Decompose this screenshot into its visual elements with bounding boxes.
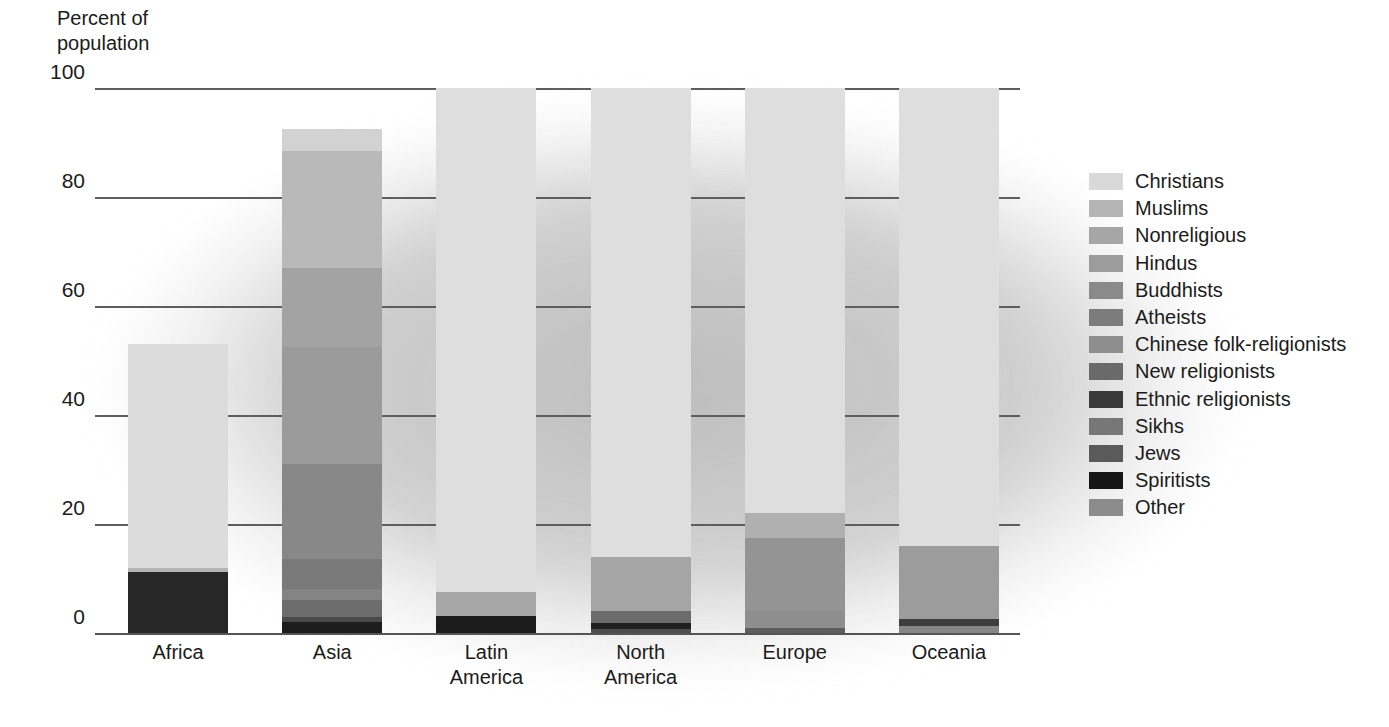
bar-segment-muslims (745, 513, 845, 538)
legend-label: Hindus (1135, 252, 1197, 275)
legend-label: Sikhs (1135, 415, 1184, 438)
legend-label: Chinese folk-religionists (1135, 333, 1346, 356)
bar-north-america[interactable] (591, 88, 691, 633)
bar-segment-other (899, 626, 999, 633)
bar-oceania[interactable] (899, 88, 999, 633)
legend-item-nonreligious[interactable]: Nonreligious (1089, 222, 1384, 249)
bar-segment-nonreligious (282, 268, 382, 347)
bar-segment-christians (745, 88, 845, 513)
bar-segment-nonreligious (899, 546, 999, 619)
legend-item-christians[interactable]: Christians (1089, 168, 1384, 195)
bar-segment-nonreligious (436, 592, 536, 615)
y-tick-label-60: 60 (33, 278, 85, 302)
bar-europe[interactable] (745, 88, 845, 633)
x-label-latin-america: Latin America (406, 640, 566, 690)
bar-segment-buddhists (282, 464, 382, 559)
legend-item-other[interactable]: Other (1089, 494, 1384, 521)
gridline-60 (95, 306, 1020, 308)
legend-label: Christians (1135, 170, 1224, 193)
gridline-100 (95, 88, 1020, 90)
bar-segment-jews (591, 611, 691, 623)
gridline-20 (95, 524, 1020, 526)
legend-swatch-icon (1089, 391, 1123, 408)
bar-segment-christians (436, 88, 536, 592)
legend-label: Nonreligious (1135, 224, 1246, 247)
bar-segment-nonreligious (745, 538, 845, 612)
legend-item-buddhists[interactable]: Buddhists (1089, 277, 1384, 304)
legend-label: Spiritists (1135, 469, 1211, 492)
legend-swatch-icon (1089, 255, 1123, 272)
y-tick-label-20: 20 (33, 496, 85, 520)
legend-item-hindus[interactable]: Hindus (1089, 250, 1384, 277)
bar-segment-nonreligious (591, 557, 691, 612)
bar-segment-christians (128, 344, 228, 567)
legend-label: Other (1135, 496, 1185, 519)
legend-label: Muslims (1135, 197, 1208, 220)
bar-latin-america[interactable] (436, 88, 536, 633)
y-tick-label-100: 100 (33, 60, 85, 84)
gridline-40 (95, 415, 1020, 417)
legend-swatch-icon (1089, 472, 1123, 489)
legend-item-chinese-folk-religionists[interactable]: Chinese folk-religionists (1089, 331, 1384, 358)
bar-segment-christians (899, 88, 999, 546)
gridline-0 (95, 633, 1020, 635)
legend-swatch-icon (1089, 499, 1123, 516)
legend-item-jews[interactable]: Jews (1089, 440, 1384, 467)
legend: ChristiansMuslimsNonreligiousHindusBuddh… (1089, 168, 1384, 521)
bar-segment-spiritists (436, 616, 536, 633)
chart-stage: Percent of population 100806040200 Afric… (0, 0, 1389, 727)
legend-label: Ethnic religionists (1135, 388, 1291, 411)
bar-segment-christians (591, 88, 691, 557)
bar-segment-muslims (282, 151, 382, 268)
legend-swatch-icon (1089, 227, 1123, 244)
legend-item-atheists[interactable]: Atheists (1089, 304, 1384, 331)
legend-item-sikhs[interactable]: Sikhs (1089, 413, 1384, 440)
bar-segment-ethnic-religionists (128, 572, 228, 633)
bar-segment-hindus (282, 347, 382, 464)
y-tick-label-0: 0 (33, 605, 85, 629)
x-label-europe: Europe (715, 640, 875, 665)
legend-swatch-icon (1089, 418, 1123, 435)
bar-africa[interactable] (128, 344, 228, 633)
bar-segment-other (591, 629, 691, 633)
y-axis-title: Percent of population (57, 6, 149, 56)
legend-swatch-icon (1089, 445, 1123, 462)
plot-area: 100806040200 AfricaAsiaLatin AmericaNort… (95, 88, 1020, 633)
legend-swatch-icon (1089, 282, 1123, 299)
legend-swatch-icon (1089, 309, 1123, 326)
x-label-asia: Asia (252, 640, 412, 665)
legend-label: New religionists (1135, 360, 1275, 383)
x-label-north-america: North America (561, 640, 721, 690)
legend-item-spiritists[interactable]: Spiritists (1089, 467, 1384, 494)
bar-segment-jews (745, 628, 845, 633)
legend-swatch-icon (1089, 336, 1123, 353)
x-label-oceania: Oceania (869, 640, 1029, 665)
legend-label: Jews (1135, 442, 1181, 465)
bar-segment-new-religionists (282, 589, 382, 600)
legend-label: Buddhists (1135, 279, 1223, 302)
bar-segment-spiritists (282, 622, 382, 633)
y-tick-label-80: 80 (33, 169, 85, 193)
x-label-africa: Africa (98, 640, 258, 665)
legend-item-new-religionists[interactable]: New religionists (1089, 358, 1384, 385)
legend-item-ethnic-religionists[interactable]: Ethnic religionists (1089, 386, 1384, 413)
legend-swatch-icon (1089, 200, 1123, 217)
bar-segment-chinese-folk-religionists (282, 559, 382, 589)
legend-item-muslims[interactable]: Muslims (1089, 195, 1384, 222)
legend-label: Atheists (1135, 306, 1206, 329)
legend-swatch-icon (1089, 173, 1123, 190)
bar-segment-ethnic-religionists (282, 600, 382, 616)
bar-segment-ethnic-religionists (899, 619, 999, 627)
bar-segment-atheists (745, 611, 845, 627)
legend-swatch-icon (1089, 363, 1123, 380)
bar-asia[interactable] (282, 129, 382, 633)
gridline-80 (95, 197, 1020, 199)
bar-segment-christians (282, 129, 382, 151)
y-tick-label-40: 40 (33, 387, 85, 411)
